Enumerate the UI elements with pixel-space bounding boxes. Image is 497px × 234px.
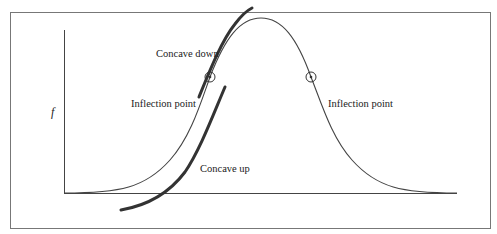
label-inflection-right: Inflection point bbox=[328, 98, 393, 109]
figure-frame bbox=[11, 13, 491, 229]
inflection-dot-left bbox=[209, 76, 212, 79]
label-concave-down: Concave down bbox=[156, 48, 219, 59]
label-inflection-left: Inflection point bbox=[131, 98, 196, 109]
inflection-dot-right bbox=[310, 76, 313, 79]
y-axis-label: f bbox=[51, 105, 56, 119]
label-concave-up: Concave up bbox=[200, 163, 250, 174]
inflection-diagram: f Concave down Inflection point Inflecti… bbox=[0, 0, 497, 234]
bell-curve bbox=[64, 18, 457, 193]
